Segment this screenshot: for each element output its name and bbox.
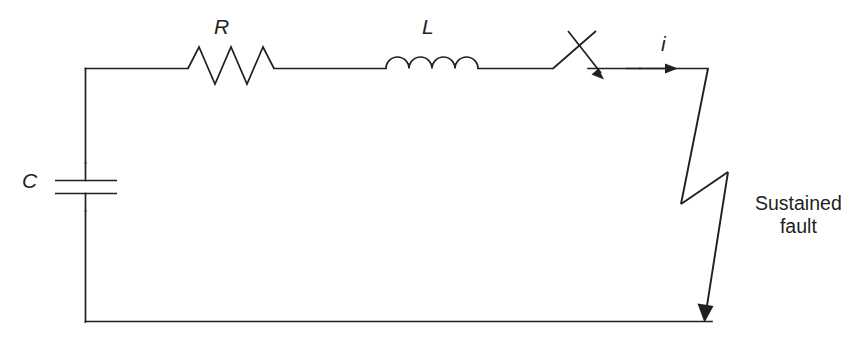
current-label: i xyxy=(661,33,666,54)
inductor-label: L xyxy=(422,16,434,37)
resistor-label: R xyxy=(214,16,229,37)
resistor-symbol xyxy=(188,47,274,84)
switch-arrowhead-icon xyxy=(592,69,605,80)
bolt-edge-right xyxy=(706,172,728,312)
bolt-edge-left xyxy=(681,69,708,205)
fault-arrowhead-icon xyxy=(698,304,714,323)
circuit-diagram: R L i C Sustained fault xyxy=(0,0,852,340)
switch-symbol xyxy=(553,31,640,80)
fault-label-line-2: fault xyxy=(755,215,842,238)
capacitor-symbol xyxy=(55,181,117,194)
circuit-schematic-svg xyxy=(0,0,852,340)
bolt-edge-notch xyxy=(681,172,728,204)
current-arrowhead-icon xyxy=(665,64,678,74)
fault-label-line-1: Sustained xyxy=(755,192,842,214)
capacitor-label: C xyxy=(22,170,37,191)
fault-lightning-bolt-icon xyxy=(681,69,728,323)
switch-blade-rising xyxy=(553,31,596,69)
inductor-symbol xyxy=(386,57,478,68)
current-arrow-icon xyxy=(626,64,678,74)
fault-label: Sustained fault xyxy=(755,192,842,238)
